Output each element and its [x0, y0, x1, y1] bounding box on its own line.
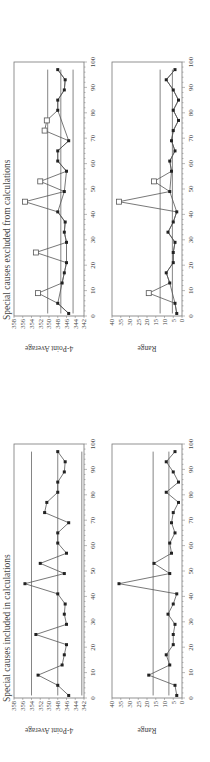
data-point [56, 684, 59, 687]
x-tick-label: 20 [187, 261, 195, 269]
x-tick-label: 50 [89, 567, 97, 575]
plot-frame [14, 62, 84, 316]
x-tick-label: 60 [187, 160, 195, 168]
data-point [170, 139, 173, 142]
x-tick-label: 20 [89, 643, 97, 651]
data-point [153, 562, 156, 565]
special-cause-point [152, 179, 157, 184]
y-tick-label: 356 [19, 318, 26, 329]
x-tick-label: 90 [187, 83, 195, 91]
data-point [172, 221, 175, 224]
data-point [168, 572, 171, 575]
x-tick-label: 0 [89, 314, 97, 318]
y-tick-label: 350 [45, 701, 52, 711]
y-tick-label: 354 [28, 700, 35, 711]
y-tick-label: 10 [161, 319, 168, 326]
data-point [172, 251, 175, 254]
x-tick-label: 20 [89, 261, 97, 269]
x-tick-label: 70 [187, 134, 195, 142]
y-axis-label: 4-Point Average [24, 344, 73, 353]
data-point [61, 281, 64, 284]
data-point [172, 643, 175, 646]
chart-svg-included: Special causes included in calculations … [0, 382, 210, 762]
x-tick-label: 10 [89, 287, 97, 295]
data-point [175, 210, 178, 213]
x-tick-label: 40 [89, 592, 97, 600]
x-tick-label: 50 [89, 185, 97, 193]
figure-special-causes-included: Special causes included in calculations … [0, 382, 210, 762]
y-tick-label: 0 [178, 701, 185, 704]
x-tick-label: 30 [89, 618, 97, 626]
x-tick-label: 80 [187, 491, 195, 499]
y-tick-label: 5 [170, 319, 177, 322]
panel-range: 01020304050607080901000510152025303540Ra… [108, 56, 195, 353]
data-point [63, 190, 66, 193]
data-point [174, 68, 177, 71]
data-point [65, 643, 68, 646]
data-point [172, 129, 175, 132]
data-point [172, 109, 175, 112]
data-point [56, 592, 59, 595]
y-tick-label: 348 [54, 701, 61, 711]
data-point [175, 592, 178, 595]
data-point [174, 531, 177, 534]
data-point [56, 481, 59, 484]
data-point [63, 653, 66, 656]
data-point [63, 572, 66, 575]
data-point [67, 521, 70, 524]
x-tick-label: 70 [89, 134, 97, 142]
y-tick-label: 5 [170, 701, 177, 704]
data-point [63, 613, 66, 616]
data-point [67, 312, 70, 315]
data-point [23, 582, 26, 585]
x-tick-label: 10 [187, 287, 195, 295]
y-axis-label: Range [137, 726, 157, 735]
figure-special-causes-excluded: Special causes excluded from calculation… [0, 0, 210, 380]
figure-title: Special causes included in calculations [2, 554, 12, 702]
data-point [165, 78, 168, 81]
data-point [65, 261, 68, 264]
y-tick-label: 344 [72, 318, 79, 329]
x-tick-label: 80 [89, 109, 97, 117]
x-tick-label: 70 [89, 516, 97, 524]
y-tick-label: 350 [45, 319, 52, 329]
x-tick-label: 60 [89, 542, 97, 550]
x-tick-label: 80 [89, 491, 97, 499]
data-point [170, 521, 173, 524]
data-point [172, 633, 175, 636]
y-tick-label: 342 [80, 701, 87, 711]
x-tick-label: 100 [89, 56, 97, 67]
data-point [61, 663, 64, 666]
y-tick-label: 348 [54, 319, 61, 329]
x-tick-label: 90 [89, 465, 97, 473]
x-tick-label: 0 [187, 696, 195, 700]
data-point [165, 491, 168, 494]
data-point [64, 460, 67, 463]
data-point [165, 653, 168, 656]
x-tick-label: 100 [89, 438, 97, 449]
y-tick-label: 25 [135, 319, 142, 326]
special-cause-point [42, 128, 47, 133]
special-cause-point [44, 118, 49, 123]
data-point [56, 531, 59, 534]
data-point [64, 221, 67, 224]
x-tick-label: 40 [89, 210, 97, 218]
x-tick-label: 10 [89, 669, 97, 677]
data-point [65, 241, 68, 244]
y-tick-label: 30 [126, 701, 133, 708]
special-cause-point [33, 250, 38, 255]
data-point [65, 552, 68, 555]
special-cause-point [38, 179, 43, 184]
data-point [172, 88, 175, 91]
data-point [39, 562, 42, 565]
y-tick-label: 10 [161, 701, 168, 708]
data-point [172, 261, 175, 264]
panel-average: 0102030405060708090100342344346348350352… [10, 56, 97, 353]
data-point [56, 160, 59, 163]
y-tick-label: 342 [80, 319, 87, 329]
x-tick-label: 30 [187, 236, 195, 244]
x-tick-label: 50 [187, 567, 195, 575]
y-axis-label: 4-Point Average [24, 726, 73, 735]
y-tick-label: 358 [10, 701, 17, 711]
y-tick-label: 346 [63, 700, 70, 711]
